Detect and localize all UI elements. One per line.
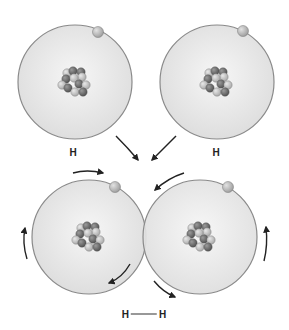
electron-icon	[93, 27, 104, 38]
molecule-atom-left-label: H	[122, 309, 129, 320]
electron-icon	[238, 26, 249, 37]
hydrogen-atom-bottom-right	[143, 180, 257, 294]
atom-label-right: H	[212, 147, 219, 158]
covalent-bond-line	[131, 313, 157, 315]
combine-arrow-right-icon	[152, 136, 176, 160]
molecule-label: H H	[122, 309, 166, 320]
hydrogen-atom-top-left	[18, 25, 132, 139]
hydrogen-atom-bottom-left	[32, 180, 146, 294]
molecule-atom-right-label: H	[159, 309, 166, 320]
combine-arrow-left-icon	[116, 136, 138, 160]
orbit-arrow-left-icon	[24, 228, 27, 259]
orbit-arrow-top-left-icon	[73, 171, 103, 173]
diagram-canvas	[0, 0, 289, 330]
electron-icon	[223, 182, 234, 193]
hydrogen-atom-top-right	[160, 25, 274, 139]
electron-icon	[110, 182, 121, 193]
atom-label-left: H	[69, 147, 76, 158]
orbit-arrow-right-icon	[264, 227, 267, 261]
